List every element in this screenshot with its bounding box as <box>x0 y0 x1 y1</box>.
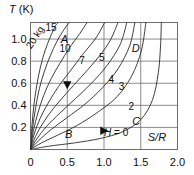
curve-label-7: 7 <box>79 55 85 66</box>
marker-triangle-down <box>63 81 71 89</box>
x-tick-label-2.0: 2.0 <box>170 156 185 168</box>
x-tick-label-1.5: 1.5 <box>133 156 148 168</box>
y-axis-title: T (K) <box>9 3 33 15</box>
curve-label-3: 3 <box>119 81 125 92</box>
curve-label-2: 2 <box>128 101 134 112</box>
point-label-c: C <box>132 115 140 127</box>
y-tick-label-1.0: 1.0 <box>11 33 26 45</box>
x-tick-label-0.5: 0.5 <box>60 156 75 168</box>
chart-figure: 20 kg151075432 ABCD H = 0S/R 0.20.40.60.… <box>0 0 194 175</box>
curve-label-5: 5 <box>99 52 105 63</box>
y-tick-label-0.4: 0.4 <box>11 99 26 111</box>
point-label-b: B <box>65 128 72 140</box>
ts-diagram-svg: 20 kg151075432 ABCD H = 0S/R 0.20.40.60.… <box>0 0 194 175</box>
annotation-h-zero: H = 0 <box>104 127 129 138</box>
y-tick-label-0.2: 0.2 <box>11 121 26 133</box>
curve-label-15: 15 <box>46 22 58 33</box>
field-curves <box>31 23 162 150</box>
x-tick-label-1.0: 1.0 <box>96 156 111 168</box>
y-tick-label-0.6: 0.6 <box>11 77 26 89</box>
curve-label-4: 4 <box>109 74 115 85</box>
annotation-s-over-r: S/R <box>148 131 166 143</box>
x-tick-label-0: 0 <box>27 156 33 168</box>
point-label-a: A <box>60 33 68 45</box>
annotations: H = 0S/R <box>104 127 166 142</box>
curve-label-20kg: 20 kg <box>24 24 46 51</box>
point-label-d: D <box>132 42 140 54</box>
y-tick-label-0.8: 0.8 <box>11 55 26 67</box>
